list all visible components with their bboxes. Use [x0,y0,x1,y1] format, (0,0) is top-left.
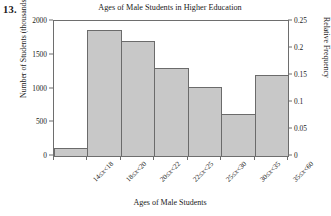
y-axis-ticks-left: 0500100015002000 [0,20,53,155]
y-axis-label-right: Relative Frequency [322,0,331,117]
x-tick-label: 35≤x<60 [292,160,316,184]
bar-series [54,21,288,156]
y-tick-right-label: 0.25 [292,16,307,25]
y-tick-left-label: 2000 [32,16,49,25]
y-tick-left: 2000 [32,16,53,25]
x-tick-mark [287,156,288,160]
x-axis-label: Ages of Male Students [53,198,287,207]
y-tick-right: 0.2 [288,43,303,52]
y-tick-right: 0.05 [288,124,307,133]
bar [87,30,121,156]
y-tick-left: 1500 [32,49,53,58]
x-tick-label: 14≤x<18 [91,160,115,184]
y-tick-left-label: 1500 [32,49,49,58]
y-tick-right-label: 0 [292,151,298,160]
bar [255,75,289,156]
y-axis-ticks-right: 00.050.10.150.20.25 [288,20,318,155]
x-tick-label: 25≤x<30 [225,160,249,184]
x-tick-label: 18≤x<20 [125,160,149,184]
y-tick-right-label: 0.1 [292,97,303,106]
y-tick-right-label: 0.2 [292,43,303,52]
bar [221,114,255,156]
bar [121,41,155,156]
y-tick-left-label: 500 [36,117,49,126]
chart-title: Ages of Male Students in Higher Educatio… [53,3,287,13]
x-tick-label: 30≤x<35 [258,160,282,184]
bar [188,87,222,156]
y-tick-left: 500 [36,117,53,126]
y-tick-right: 0.1 [288,97,303,106]
y-tick-right-label: 0.05 [292,124,307,133]
y-tick-right-label: 0.15 [292,70,307,79]
figure-number: 13. [3,4,17,15]
y-tick-left-label: 1000 [32,83,49,92]
x-axis-tick-labels: 14≤x<1818≤x<2020≤x<2222≤x<2525≤x<3030≤x<… [53,160,287,196]
x-tick-label: 22≤x<25 [192,160,216,184]
bar [54,148,88,156]
y-tick-left: 0 [43,151,53,160]
y-tick-right: 0.25 [288,16,307,25]
y-tick-left: 1000 [32,83,53,92]
y-tick-right: 0 [288,151,298,160]
bar [154,68,188,156]
x-tick-label: 20≤x<22 [158,160,182,184]
y-tick-right: 0.15 [288,70,307,79]
plot-area [53,20,289,157]
